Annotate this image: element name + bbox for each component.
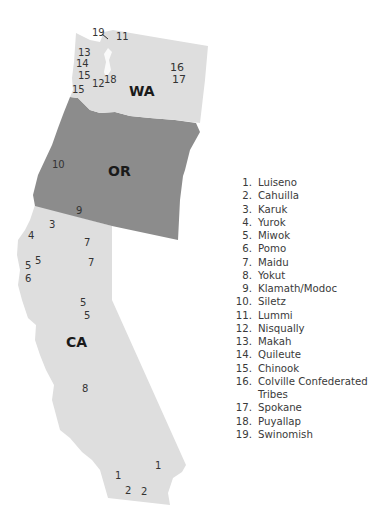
map-marker: 4 (28, 230, 34, 241)
legend-item: 7.Maidu (231, 256, 368, 269)
map-marker: 5 (80, 297, 86, 308)
legend-item: 11.Lummi (231, 309, 368, 322)
state-label-ca: CA (66, 334, 87, 350)
legend-item: 6.Pomo (231, 242, 368, 255)
map-marker: 2 (125, 485, 131, 496)
map-marker: 17 (172, 73, 186, 86)
map-marker: 8 (82, 383, 88, 394)
map-marker: 15 (72, 84, 85, 95)
map-marker: 11 (116, 31, 129, 42)
legend-item: 14.Quileute (231, 348, 368, 361)
map-marker: 9 (76, 205, 82, 216)
map-marker: 1 (155, 460, 161, 471)
state-label-wa: WA (129, 83, 155, 99)
legend-item: 16.Colville Confederated Tribes (231, 375, 368, 402)
legend-item: 9.Klamath/Modoc (231, 282, 368, 295)
legend-item: 3.Karuk (231, 203, 368, 216)
legend-item: 8.Yokut (231, 269, 368, 282)
map-marker: 6 (25, 273, 31, 284)
map-marker: 10 (52, 159, 65, 170)
legend-item: 2.Cahuilla (231, 189, 368, 202)
legend-item: 5.Miwok (231, 229, 368, 242)
legend-item: 13.Makah (231, 335, 368, 348)
tribe-legend: 1.Luiseno 2.Cahuilla 3.Karuk 4.Yurok 5.M… (231, 176, 368, 441)
map-marker: 7 (88, 257, 94, 268)
map-marker: 1 (115, 470, 121, 481)
legend-item: 18.Puyallap (231, 415, 368, 428)
map-marker: 13 (78, 47, 91, 58)
legend-item: 10.Siletz (231, 295, 368, 308)
map-marker: 5 (25, 260, 31, 271)
map-marker: 19 (92, 27, 105, 38)
map-marker: 2 (141, 486, 147, 497)
map-marker: 3 (49, 219, 55, 230)
legend-item: 17.Spokane (231, 401, 368, 414)
map-marker: 5 (35, 255, 41, 266)
legend-item: 19.Swinomish (231, 428, 368, 441)
map-marker: 18 (104, 74, 117, 85)
map-marker: 12 (92, 78, 105, 89)
map-marker: 15 (78, 70, 91, 81)
map-marker: 7 (84, 237, 90, 248)
state-label-or: OR (108, 163, 131, 179)
map-marker: 14 (76, 58, 89, 69)
legend-item: 4.Yurok (231, 216, 368, 229)
legend-item: 12.Nisqually (231, 322, 368, 335)
legend-item: 15.Chinook (231, 362, 368, 375)
legend-item: 1.Luiseno (231, 176, 368, 189)
map-marker: 5 (84, 310, 90, 321)
